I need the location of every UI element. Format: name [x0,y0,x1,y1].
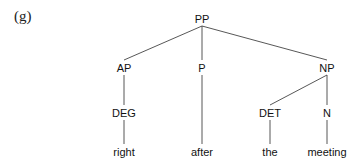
node-np: NP [319,62,334,74]
node-det: DET [259,107,281,119]
tree-edge [202,26,327,60]
syntax-tree-diagram: (g) PP AP P NP DEG DET N right after the… [0,0,358,164]
node-n: N [323,107,331,119]
example-label: (g) [14,8,32,25]
word-after: after [191,146,213,158]
word-right: right [113,146,134,158]
node-ap: AP [117,62,132,74]
tree-edge [270,75,327,105]
tree-edge [124,26,202,60]
tree-edges [0,0,358,164]
word-the: the [262,146,277,158]
node-p: P [198,62,205,74]
word-meeting: meeting [307,146,346,158]
node-pp: PP [195,13,210,25]
node-deg: DEG [112,107,136,119]
